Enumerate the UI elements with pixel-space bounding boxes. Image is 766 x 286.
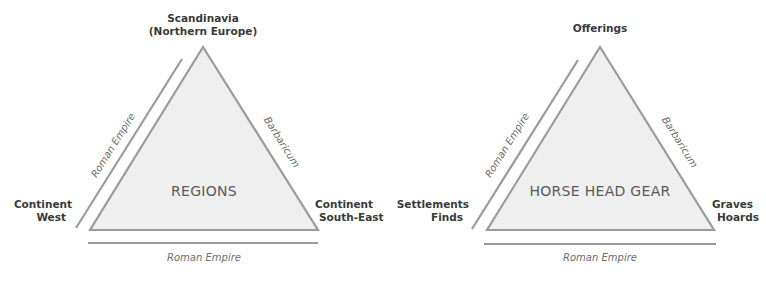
horse-head-gear-right-label-line2: Hoards (717, 211, 759, 223)
horse-head-gear-top-label: Offerings (573, 22, 628, 34)
horse-head-gear-left-label-line1: Settlements (397, 198, 469, 210)
regions-top-label-line1: Scandinavia (167, 12, 239, 24)
regions-top-label-line2: (Northern Europe) (149, 25, 257, 37)
regions-left-label-line1: Continent (14, 198, 72, 210)
horse-head-gear-left-label-line2: Finds (431, 211, 463, 223)
horse-head-gear-diagram: Offerings Settlements Finds Graves Hoard… (397, 22, 759, 263)
regions-bottom-side-label: Roman Empire (167, 252, 241, 263)
horse-head-gear-bottom-side-label: Roman Empire (563, 252, 637, 263)
regions-left-label-line2: West (36, 211, 66, 223)
regions-right-label-line2: South-East (319, 211, 384, 223)
diagram-canvas: Scandinavia (Northern Europe) Continent … (0, 0, 766, 286)
horse-head-gear-right-label-line1: Graves (712, 198, 753, 210)
horse-head-gear-center-label: HORSE HEAD GEAR (529, 183, 670, 199)
regions-center-label: REGIONS (171, 183, 237, 199)
regions-right-label-line1: Continent (315, 198, 373, 210)
regions-diagram: Scandinavia (Northern Europe) Continent … (14, 12, 384, 263)
